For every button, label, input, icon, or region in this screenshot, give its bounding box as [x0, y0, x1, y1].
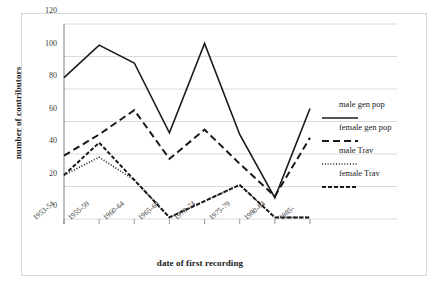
- y-tick-label: 60: [31, 104, 57, 113]
- x-tick-marks: [64, 219, 310, 224]
- y-tick-label: 40: [31, 136, 57, 145]
- y-axis-title: number of contributors: [13, 48, 23, 178]
- legend-label-1: female gen pop: [339, 122, 391, 132]
- series-line-1: [64, 110, 310, 196]
- chart-plot-area: [0, 0, 444, 291]
- legend-label-2: male Trav: [339, 145, 373, 155]
- y-tick-label: 20: [31, 169, 57, 178]
- legend-label-0: male gen pop: [339, 99, 385, 109]
- y-tick-label: 120: [31, 6, 57, 15]
- series-line-0: [64, 44, 310, 198]
- y-tick-label: 80: [31, 71, 57, 80]
- x-axis-title: date of first recording: [110, 258, 290, 268]
- chart-figure: number of contributors date of first rec…: [0, 0, 444, 291]
- series-lines: [64, 44, 310, 218]
- legend-label-3: female Trav: [339, 168, 380, 178]
- y-tick-label: 100: [31, 39, 57, 48]
